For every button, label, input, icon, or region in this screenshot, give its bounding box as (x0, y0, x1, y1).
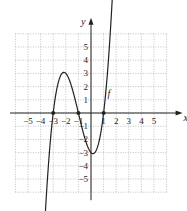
svg-text:−5: −5 (78, 174, 88, 184)
svg-text:4: 4 (84, 55, 89, 65)
svg-text:5: 5 (84, 42, 89, 52)
svg-text:3: 3 (84, 68, 89, 78)
svg-text:−4: −4 (78, 161, 88, 171)
svg-text:4: 4 (139, 116, 144, 126)
svg-text:−2: −2 (61, 116, 71, 126)
svg-text:−5: −5 (23, 116, 33, 126)
svg-text:1: 1 (84, 95, 89, 105)
svg-text:5: 5 (152, 116, 157, 126)
x-axis-label: x (183, 112, 187, 123)
function-graph: −5−4−3−2−112345−5−4−3−2−112345 f x y (0, 0, 187, 211)
curve-label-f: f (107, 88, 111, 99)
svg-text:3: 3 (127, 116, 132, 126)
svg-text:−1: −1 (78, 121, 88, 131)
svg-text:−3: −3 (48, 116, 58, 126)
svg-text:−3: −3 (78, 148, 88, 158)
y-axis-label: y (80, 16, 86, 27)
svg-text:2: 2 (114, 116, 119, 126)
svg-text:2: 2 (84, 82, 89, 92)
svg-text:−4: −4 (36, 116, 46, 126)
axes (10, 18, 183, 200)
